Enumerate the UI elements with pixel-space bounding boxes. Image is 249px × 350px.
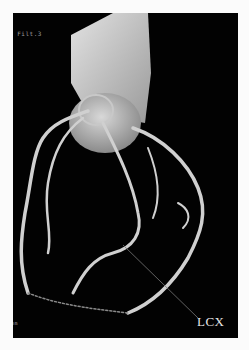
ct-render-viewport: e Filt.3 mm LCX bbox=[13, 13, 238, 338]
overlay-scale-text: mm bbox=[13, 320, 18, 326]
leader-line bbox=[123, 245, 198, 318]
heart-vessel-render bbox=[13, 13, 238, 338]
distal-vessel bbox=[28, 293, 128, 313]
overlay-filter-text: e Filt.3 bbox=[13, 30, 42, 37]
obtuse-marginal bbox=[178, 203, 188, 228]
lcx-annotation-label: LCX bbox=[197, 314, 225, 330]
diagonal-branch bbox=[148, 148, 158, 218]
